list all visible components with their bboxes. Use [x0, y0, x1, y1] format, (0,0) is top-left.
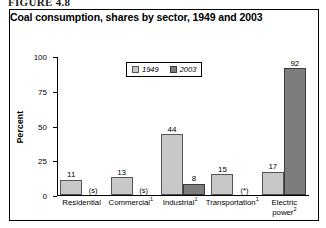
bar-value-label: 44	[168, 126, 177, 134]
figure-root: FIGURE 4.8 Coal consumption, shares by s…	[0, 0, 326, 228]
y-tick-label: 75	[38, 87, 47, 96]
x-axis-label: Commercial1	[106, 198, 155, 217]
bar-1949[interactable]: 17	[262, 172, 284, 195]
bar-value-label: 13	[117, 169, 126, 177]
bar-1949[interactable]: 11	[60, 180, 82, 195]
bar-note-label: (*)	[240, 187, 248, 195]
x-axis-labels: ResidentialCommercial1Industrial1Transpo…	[57, 198, 309, 217]
x-axis-label-footnote: 1	[194, 196, 197, 202]
bar-2003[interactable]: 8	[183, 184, 205, 195]
bar-slot-2003: (s)	[133, 57, 155, 195]
bar-group: 448	[158, 57, 208, 195]
y-tick: 0	[53, 196, 57, 197]
bar-2003[interactable]: 92	[284, 68, 306, 195]
y-tick-label: 25	[38, 157, 47, 166]
bar-note-label: (s)	[139, 187, 148, 195]
bar-1949[interactable]: 44	[161, 134, 183, 195]
legend-item-1949: 1949	[132, 65, 159, 74]
x-axis-label-footnote: 2	[293, 206, 296, 212]
y-axis-title: Percent	[14, 57, 26, 196]
bar-group: 13(s)	[107, 57, 157, 195]
bar-slot-1949: 44	[161, 57, 183, 195]
figure-caption: FIGURE 4.8	[8, 0, 70, 8]
x-axis-label-footnote: 1	[150, 196, 153, 202]
legend-label-2003: 2003	[180, 65, 197, 74]
bar-slot-2003: 8	[183, 57, 205, 195]
plot-area: 0255075100 11(s)13(s)44815(*)1792	[57, 57, 309, 196]
x-axis-label-footnote: 1	[256, 196, 259, 202]
bar-value-label: 8	[192, 175, 196, 183]
bar-group: 15(*)	[208, 57, 258, 195]
bar-note-label: (s)	[89, 187, 98, 195]
bar-value-label: 15	[218, 166, 227, 174]
bar-groups: 11(s)13(s)44815(*)1792	[57, 57, 309, 195]
chart-legend: 1949 2003	[126, 62, 202, 77]
bar-value-label: 17	[268, 163, 277, 171]
bar-group: 1792	[259, 57, 309, 195]
bar-slot-2003: (s)	[82, 57, 104, 195]
bar-slot-1949: 17	[262, 57, 284, 195]
bar-value-label: 11	[67, 171, 75, 179]
x-axis-label: Industrial1	[155, 198, 204, 217]
bar-slot-1949: 11	[60, 57, 82, 195]
bar-slot-1949: 13	[111, 57, 133, 195]
bar-1949[interactable]: 15	[211, 174, 233, 195]
chart-title: Coal consumption, shares by sector, 1949…	[10, 11, 262, 23]
bar-group: 11(s)	[57, 57, 107, 195]
y-axis-title-text: Percent	[15, 110, 25, 143]
bar-value-label: 92	[290, 60, 299, 68]
y-tick-label: 50	[38, 122, 47, 131]
y-tick-label: 0	[43, 192, 47, 201]
legend-label-1949: 1949	[142, 65, 159, 74]
legend-item-2003: 2003	[170, 65, 197, 74]
bar-1949[interactable]: 13	[111, 177, 133, 195]
bar-slot-2003: (*)	[233, 57, 255, 195]
legend-swatch-2003-icon	[170, 66, 177, 73]
y-tick-label: 100	[34, 53, 47, 62]
x-axis-label: Electric power2	[260, 198, 309, 217]
x-axis-label: Transportation1	[205, 198, 260, 217]
bar-slot-1949: 15	[211, 57, 233, 195]
legend-swatch-1949-icon	[132, 66, 139, 73]
x-axis-label: Residential	[57, 198, 106, 217]
bar-slot-2003: 92	[284, 57, 306, 195]
